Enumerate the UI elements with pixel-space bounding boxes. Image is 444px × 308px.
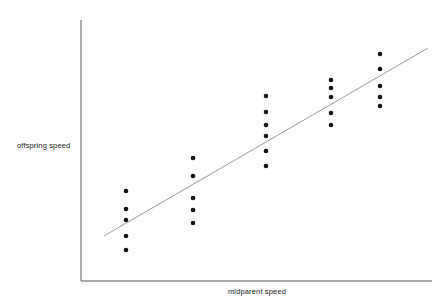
data-point (378, 52, 383, 57)
data-point (378, 67, 383, 72)
data-point (124, 218, 129, 223)
data-point (378, 84, 383, 89)
data-point (191, 196, 196, 201)
data-point (329, 95, 334, 100)
data-point (124, 248, 129, 253)
scatter-plot-figure: offspring speed midparent speed (0, 0, 444, 308)
data-point (264, 134, 269, 139)
data-point (329, 111, 334, 116)
data-point (264, 123, 269, 128)
data-point (378, 104, 383, 109)
data-point (191, 174, 196, 179)
data-points-group (124, 52, 383, 253)
data-point (191, 221, 196, 226)
plot-canvas (0, 0, 444, 308)
data-point (124, 234, 129, 239)
data-point (191, 208, 196, 213)
data-point (329, 86, 334, 91)
data-point (329, 78, 334, 83)
data-point (329, 123, 334, 128)
data-point (264, 110, 269, 115)
data-point (191, 156, 196, 161)
data-point (264, 149, 269, 154)
data-point (264, 94, 269, 99)
data-point (124, 189, 129, 194)
axes-group (81, 20, 432, 281)
data-point (378, 95, 383, 100)
data-point (124, 207, 129, 212)
regression-trendline (104, 48, 428, 236)
data-point (264, 164, 269, 169)
x-axis-label: midparent speed (192, 287, 322, 296)
y-axis-label: offspring speed (17, 141, 70, 150)
